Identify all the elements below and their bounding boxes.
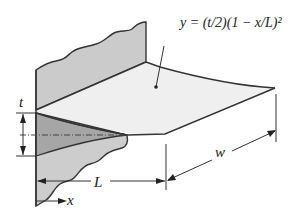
length-label: L (94, 175, 102, 190)
w-arrow-left (167, 174, 176, 181)
t-arrow-up (20, 114, 26, 123)
profile-equation: y = (t/2)(1 − x/L)² (180, 16, 282, 30)
w-arrow-right (267, 130, 276, 137)
fin-diagram (0, 0, 297, 219)
x-axis-arrow (58, 198, 67, 204)
w-dim-line-1 (168, 160, 212, 180)
t-arrow-down (20, 146, 26, 155)
thickness-label: t (19, 95, 23, 110)
L-arrow-right (156, 178, 165, 184)
width-label: w (215, 145, 225, 160)
x-axis-label: x (67, 193, 74, 208)
leader-dot (154, 85, 158, 89)
